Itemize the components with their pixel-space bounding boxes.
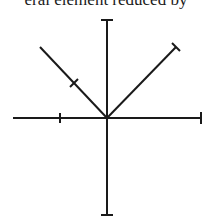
right-diagonal bbox=[107, 47, 176, 118]
element-diagram bbox=[0, 0, 212, 224]
origin-point bbox=[106, 117, 109, 120]
